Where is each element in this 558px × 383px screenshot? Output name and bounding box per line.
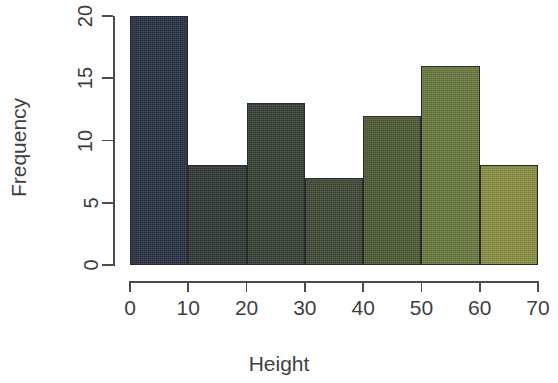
x-axis-tick-label: 50 (391, 296, 451, 320)
histogram-bar (247, 103, 305, 265)
y-axis-title: Frequency (2, 50, 36, 245)
x-axis-tick (421, 281, 423, 292)
x-axis-line (130, 281, 539, 283)
x-axis-tick-label: 20 (217, 296, 277, 320)
y-axis-tick-label: 20 (0, 5, 96, 27)
y-axis-tick (102, 264, 113, 266)
y-axis-title-text: Frequency (2, 50, 36, 245)
x-axis-tick (129, 281, 131, 292)
x-axis-tick-label: 40 (333, 296, 393, 320)
y-axis-tick (102, 202, 113, 204)
x-axis-tick-label: 0 (100, 296, 160, 320)
x-axis-tick (187, 281, 189, 292)
histogram-figure: 05101520 Frequency 010203040506070 Heigh… (0, 0, 558, 383)
histogram-bar (363, 116, 421, 265)
x-axis-tick-label: 10 (158, 296, 218, 320)
histogram-bar (188, 165, 246, 265)
histogram-bar (130, 16, 188, 265)
x-axis-tick (246, 281, 248, 292)
histogram-bar (480, 165, 538, 265)
y-axis-tick (102, 77, 113, 79)
histogram-bar (421, 66, 479, 265)
x-axis-tick (537, 281, 539, 292)
x-axis-title: Height (0, 352, 558, 376)
x-axis-tick (479, 281, 481, 292)
x-axis-tick-label: 60 (450, 296, 510, 320)
y-axis-tick (102, 15, 113, 17)
y-axis-tick (102, 140, 113, 142)
y-axis-line (113, 16, 115, 266)
x-axis-tick (304, 281, 306, 292)
plot-area (130, 16, 538, 265)
x-axis-tick-label: 70 (508, 296, 558, 320)
x-axis-tick-label: 30 (275, 296, 335, 320)
x-axis-tick (362, 281, 364, 292)
histogram-bar (305, 178, 363, 265)
y-axis-tick-label: 0 (0, 254, 96, 276)
